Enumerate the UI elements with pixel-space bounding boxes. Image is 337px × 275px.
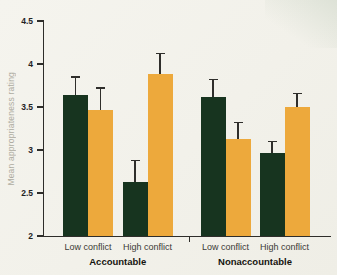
error-bar-line (212, 79, 213, 96)
error-bar-cap (156, 53, 165, 54)
x-tick-label: High conflict (113, 242, 183, 253)
y-tick-label: 3 (13, 145, 33, 155)
y-tick-label: 3.5 (13, 102, 33, 112)
y-tick-label: 4 (13, 59, 33, 69)
x-group-label: Accountable (68, 256, 168, 267)
error-bar-cap (234, 122, 243, 123)
y-tick-label: 2.5 (13, 188, 33, 198)
x-group-label: Nonaccountable (205, 256, 305, 267)
error-bar-cap (293, 93, 302, 94)
bar-orange (226, 139, 251, 236)
error-bar-cap (268, 141, 277, 142)
y-tick-mark (37, 20, 44, 22)
error-bar-line (159, 54, 160, 75)
y-tick-mark (37, 235, 44, 237)
bar-dark-green (260, 153, 285, 236)
figure-canvas: Mean appropriateness rating 22.533.544.5… (0, 0, 337, 275)
bar-dark-green (123, 182, 148, 236)
error-bar-line (296, 93, 297, 107)
bar-orange (148, 74, 173, 236)
error-bar-cap (71, 76, 80, 77)
y-tick-label: 4.5 (13, 16, 33, 26)
y-tick-mark (37, 149, 44, 151)
error-bar-line (134, 160, 135, 182)
x-tick-label: High conflict (250, 242, 320, 253)
y-tick-mark (37, 63, 44, 65)
bar-dark-green (201, 97, 226, 236)
bar-orange (88, 110, 113, 236)
error-bar-cap (131, 160, 140, 161)
plot-area: 22.533.544.5Low conflictHigh conflictAcc… (43, 21, 331, 237)
error-bar-line (237, 122, 238, 138)
bar-orange (285, 107, 310, 236)
error-bar-line (271, 141, 272, 153)
y-axis-label: Mean appropriateness rating (6, 72, 16, 186)
error-bar-cap (209, 79, 218, 80)
error-bar-cap (96, 87, 105, 88)
error-bar-line (75, 77, 76, 95)
y-tick-label: 2 (13, 231, 33, 241)
y-tick-mark (37, 106, 44, 108)
y-axis-label-wrap: Mean appropriateness rating (5, 21, 17, 236)
y-tick-mark (37, 192, 44, 194)
error-bar-line (100, 88, 101, 110)
bar-dark-green (63, 95, 88, 236)
